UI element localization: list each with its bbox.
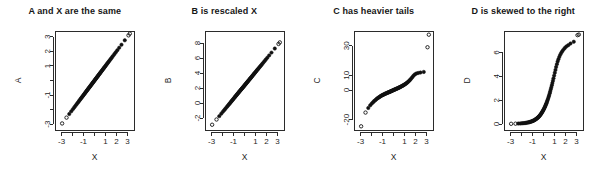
data-point	[269, 51, 272, 54]
y-tick-label: 10	[342, 70, 351, 79]
plot-area: -3-1123X0246D	[449, 0, 598, 176]
x-axis: -3-1123	[357, 132, 429, 146]
y-tick-label: -1	[43, 91, 52, 99]
y-tick-label: 6	[491, 50, 500, 55]
y-tick-label: 4	[192, 70, 201, 75]
data-point	[509, 122, 512, 125]
plot-frame	[354, 31, 433, 130]
x-tick-label: -1	[80, 137, 88, 146]
x-axis-title: X	[540, 152, 546, 162]
data-point	[426, 46, 429, 49]
x-tick-label: -3	[208, 137, 216, 146]
x-tick-label: -3	[58, 137, 66, 146]
data-point	[60, 122, 63, 125]
y-axis-title: B	[163, 77, 173, 83]
data-point	[120, 43, 123, 46]
plot-area: -3-1123X-202468B	[150, 0, 300, 176]
x-axis: -3-1123	[507, 132, 579, 146]
plot-frame	[504, 31, 583, 130]
data-point	[572, 40, 575, 43]
y-axis-title: C	[312, 77, 322, 83]
data-points	[60, 32, 131, 125]
y-axis: -202468	[192, 40, 202, 121]
plot-area: -3-1123X-3-1123A	[0, 0, 150, 176]
y-tick-label: -20	[342, 113, 351, 125]
y-tick-label: 2	[491, 97, 500, 102]
data-points	[509, 33, 580, 126]
x-axis-title: X	[391, 152, 397, 162]
x-tick-label: 2	[413, 137, 418, 146]
x-tick-label: 1	[253, 137, 258, 146]
data-point	[273, 47, 276, 50]
x-axis-title: X	[241, 152, 247, 162]
data-point	[364, 111, 367, 114]
data-point	[123, 39, 126, 42]
panel-a: A and X are the same-3-1123X-3-1123A	[0, 0, 150, 176]
x-tick-label: -3	[357, 137, 365, 146]
y-tick-label: 0	[342, 87, 351, 92]
plot-area: -3-1123X-2001030C	[299, 0, 449, 176]
plot-frame	[205, 31, 284, 130]
y-axis: -3-1123	[43, 34, 53, 128]
y-tick-label: 0	[491, 121, 500, 126]
x-tick-label: 3	[125, 137, 130, 146]
x-tick-label: 1	[552, 137, 557, 146]
data-point	[568, 42, 571, 45]
x-tick-label: 2	[563, 137, 568, 146]
y-axis: -2001030	[342, 41, 352, 126]
data-point	[117, 46, 120, 49]
data-point	[359, 125, 362, 128]
x-tick-label: -1	[528, 137, 536, 146]
x-axis: -3-1123	[208, 132, 280, 146]
y-axis: 0246	[491, 50, 501, 127]
x-tick-label: -1	[379, 137, 387, 146]
panel-c: C has heavier tails-3-1123X-2001030C	[299, 0, 449, 176]
data-point	[214, 118, 217, 121]
y-axis-title: A	[13, 77, 23, 83]
data-point	[210, 123, 213, 126]
y-tick-label: 2	[192, 85, 201, 90]
x-tick-label: 2	[264, 137, 269, 146]
y-axis-title: D	[462, 77, 472, 83]
x-axis-title: X	[92, 152, 98, 162]
x-tick-label: 2	[114, 137, 119, 146]
qq-plot-figure: A and X are the same-3-1123X-3-1123AB is…	[0, 0, 598, 176]
y-tick-label: 8	[192, 40, 201, 45]
y-tick-label: 30	[342, 41, 351, 50]
y-tick-label: 4	[491, 74, 500, 79]
x-tick-label: 1	[103, 137, 108, 146]
y-tick-label: 0	[192, 100, 201, 105]
data-point	[427, 33, 430, 36]
x-tick-label: 3	[275, 137, 280, 146]
y-tick-label: 2	[43, 49, 52, 54]
x-axis: -3-1123	[58, 132, 130, 146]
y-tick-label: 3	[43, 34, 52, 39]
y-tick-label: 1	[43, 63, 52, 68]
y-tick-label: -3	[43, 120, 52, 128]
data-points	[210, 41, 281, 127]
y-tick-label: 6	[192, 55, 201, 60]
x-tick-label: 3	[574, 137, 579, 146]
data-point	[65, 116, 68, 119]
x-tick-label: -3	[507, 137, 515, 146]
panel-b: B is rescaled X-3-1123X-202468B	[150, 0, 300, 176]
x-tick-label: -1	[229, 137, 237, 146]
data-points	[359, 33, 430, 128]
x-tick-label: 1	[402, 137, 407, 146]
panel-d: D is skewed to the right-3-1123X0246D	[449, 0, 598, 176]
data-point	[419, 71, 422, 74]
y-tick-label: -2	[192, 114, 201, 122]
data-point	[422, 70, 425, 73]
x-tick-label: 3	[424, 137, 429, 146]
